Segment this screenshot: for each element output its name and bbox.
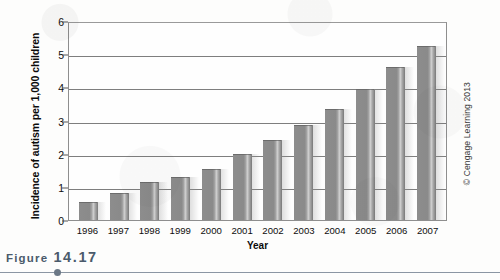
- y-tick-mark: [62, 121, 68, 122]
- bar-slot: [73, 23, 104, 220]
- bar-slot: [258, 23, 289, 220]
- x-tick-label: 2005: [350, 225, 381, 239]
- x-tick-label: 2007: [412, 225, 443, 239]
- bar-series: [69, 23, 446, 220]
- plot-area: [68, 22, 447, 221]
- bar-slot: [104, 23, 135, 220]
- figure-caption-number: 14.17: [53, 249, 97, 265]
- figure-container: Incidence of autism per 1,000 children 0…: [0, 0, 500, 280]
- x-axis-tick-labels: 1996199719981999200020012002200320042005…: [68, 225, 447, 239]
- y-tick-mark: [62, 22, 68, 23]
- bar-slot: [381, 23, 412, 220]
- bar: [356, 89, 375, 220]
- caption-rule-dot: [54, 269, 61, 276]
- x-axis-title: Year: [68, 240, 447, 251]
- bar-slot: [319, 23, 350, 220]
- bar-slot: [288, 23, 319, 220]
- x-tick-label: 2004: [319, 225, 350, 239]
- bar-slot: [227, 23, 258, 220]
- bar: [79, 202, 98, 220]
- bar: [171, 177, 190, 220]
- x-tick-label: 2000: [196, 225, 227, 239]
- x-tick-label: 1997: [103, 225, 134, 239]
- bar: [140, 182, 159, 220]
- bar-slot: [165, 23, 196, 220]
- y-tick-mark: [62, 88, 68, 89]
- bar: [233, 154, 252, 220]
- bar-shadow: [436, 46, 445, 220]
- bar: [325, 109, 344, 220]
- x-tick-label: 2001: [227, 225, 258, 239]
- x-tick-label: 1996: [72, 225, 103, 239]
- bar: [263, 140, 282, 220]
- y-axis-title: Incidence of autism per 1,000 children: [29, 21, 41, 231]
- x-tick-label: 2002: [258, 225, 289, 239]
- bar-slot: [350, 23, 381, 220]
- x-tick-label: 2006: [381, 225, 412, 239]
- y-axis-tick-labels: 0123456: [46, 0, 64, 280]
- figure-caption-label: Figure: [6, 252, 48, 264]
- bar-slot: [196, 23, 227, 220]
- bar: [417, 46, 436, 220]
- y-tick-mark: [62, 55, 68, 56]
- bar: [202, 169, 221, 220]
- caption-rule: [0, 272, 500, 273]
- x-tick-label: 2003: [288, 225, 319, 239]
- bar: [110, 193, 129, 220]
- copyright-credit: © Cengage Learning 2013: [462, 82, 472, 185]
- bar: [294, 125, 313, 220]
- y-tick-mark: [62, 154, 68, 155]
- x-tick-label: 1999: [165, 225, 196, 239]
- figure-caption: Figure 14.17: [6, 249, 98, 265]
- bar-slot: [135, 23, 166, 220]
- y-tick-mark: [62, 187, 68, 188]
- bar: [386, 67, 405, 220]
- y-tick-mark: [62, 221, 68, 222]
- x-tick-label: 1998: [134, 225, 165, 239]
- bar-slot: [411, 23, 442, 220]
